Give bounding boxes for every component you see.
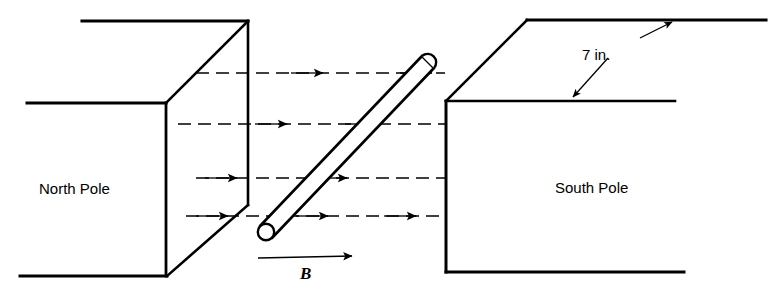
dimension-label: 7 in. <box>582 46 610 63</box>
north-pole-block: North Pole <box>20 21 248 276</box>
diagram-canvas: North Pole South Pole 7 in. <box>0 0 769 297</box>
b-field-label: B <box>299 264 311 283</box>
magnetic-field-diagram: North Pole South Pole 7 in. <box>0 0 769 297</box>
conductor-rod <box>258 54 436 240</box>
south-pole-label: South Pole <box>555 179 628 196</box>
rod-end-cap-lower <box>258 224 274 240</box>
north-pole-label: North Pole <box>39 180 110 197</box>
depth-dimension-marker: 7 in. <box>573 22 672 97</box>
b-vector-group: B <box>258 256 352 283</box>
